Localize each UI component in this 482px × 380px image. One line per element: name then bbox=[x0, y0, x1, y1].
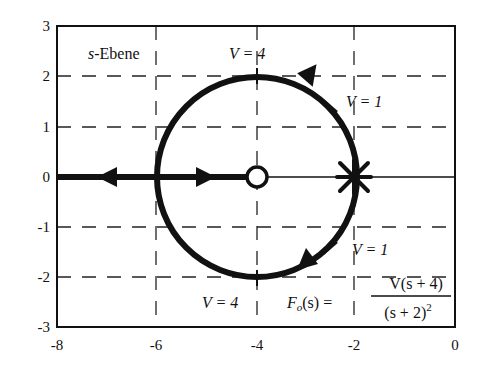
x-tick: -8 bbox=[51, 337, 64, 353]
annotation-v1-top: V = 1 bbox=[346, 93, 382, 110]
zero-marker-icon bbox=[247, 167, 267, 187]
annotation-v1-bottom: V = 1 bbox=[352, 241, 388, 258]
y-tick: 1 bbox=[43, 119, 51, 135]
y-axis-labels: 3 2 1 0 -1 -2 -3 bbox=[38, 18, 51, 335]
x-tick: -4 bbox=[251, 337, 264, 353]
y-tick: 2 bbox=[43, 68, 51, 84]
annotation-v4-top: V = 4 bbox=[229, 45, 265, 62]
plane-label: s-Ebene bbox=[88, 45, 140, 62]
arrow-right-icon bbox=[196, 167, 216, 187]
x-axis-labels: -8 -6 -4 -2 0 bbox=[51, 337, 459, 353]
x-tick: 0 bbox=[451, 337, 459, 353]
tf-lhs: Fo(s) = bbox=[286, 294, 332, 313]
y-tick: -1 bbox=[38, 219, 51, 235]
x-tick: -2 bbox=[348, 337, 361, 353]
x-tick: -6 bbox=[150, 337, 163, 353]
root-locus-plot: 3 2 1 0 -1 -2 -3 -8 -6 -4 -2 0 s-Ebene V… bbox=[0, 0, 482, 380]
tf-denominator: (s + 2)2 bbox=[384, 301, 431, 322]
y-tick: 3 bbox=[43, 18, 51, 34]
annotation-v4-bottom: V = 4 bbox=[202, 294, 238, 311]
y-tick: -2 bbox=[38, 269, 51, 285]
tf-numerator: V(s + 4) bbox=[389, 275, 442, 293]
y-tick: -3 bbox=[38, 319, 51, 335]
double-pole-marker-icon bbox=[337, 160, 371, 194]
arrow-left-icon bbox=[97, 167, 117, 187]
transfer-function: Fo(s) = V(s + 4) (s + 2)2 bbox=[286, 275, 451, 322]
y-tick: 0 bbox=[43, 169, 51, 185]
